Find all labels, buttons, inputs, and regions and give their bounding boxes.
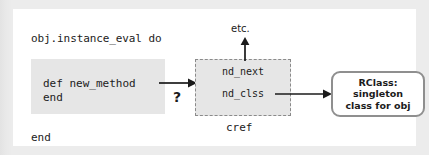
diagram-figure: obj.instance_eval do def new_method end …: [0, 0, 429, 155]
question-mark-label: ?: [173, 89, 181, 105]
code-line-outer-end: end: [31, 131, 51, 144]
cref-field-nd-next: nd_next: [222, 66, 264, 77]
arrow-right-icon-to-rclass: [275, 88, 332, 100]
rclass-line-3: class for obj: [345, 100, 410, 111]
diagram-canvas: obj.instance_eval do def new_method end …: [13, 9, 416, 146]
rclass-line-1: RClass:: [358, 77, 397, 88]
code-line-inner-end: end: [43, 91, 63, 104]
rclass-node-box: RClass: singleton class for obj: [331, 71, 425, 117]
code-line-instance-eval: obj.instance_eval do: [31, 32, 161, 45]
arrow-right-icon: [159, 76, 197, 90]
rclass-line-2: singleton: [353, 88, 403, 99]
cref-field-nd-clss: nd_clss: [222, 88, 264, 99]
arrow-up-icon: [238, 37, 252, 61]
cref-caption-label: cref: [226, 121, 253, 134]
etc-label: etc.: [231, 23, 250, 34]
code-line-def-new-method: def new_method: [43, 77, 136, 90]
